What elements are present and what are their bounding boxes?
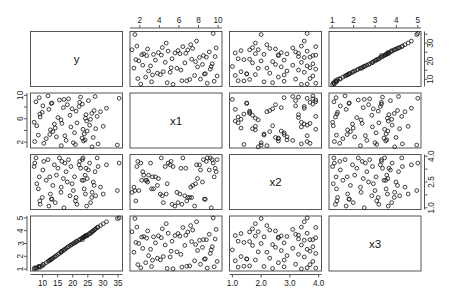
axis-x3-left: 12345 <box>17 215 28 271</box>
tick-label-x3: 1 <box>17 266 26 271</box>
tick-label-y: 20 <box>427 56 436 66</box>
tick-label-x1: 4 <box>157 16 162 25</box>
scatter-panel-x1-vs-x3 <box>130 216 222 271</box>
axis-x2-bottom: 1.02.03.04.0 <box>227 275 325 288</box>
tick-label-x3: 4 <box>17 228 26 233</box>
tick-label-x2: 2.5 <box>427 176 436 188</box>
scatter-panel-y-vs-x2 <box>31 155 123 210</box>
diagonal-panel-y: y <box>31 32 123 87</box>
tick-label-x3: 5 <box>17 215 26 220</box>
scatter-panel-x1-vs-y <box>130 32 222 87</box>
tick-label-x2: 3.0 <box>284 279 296 288</box>
diagonal-panel-x2: x2 <box>230 155 322 210</box>
tick-label-y: 30 <box>98 279 108 288</box>
tick-label-y: 30 <box>427 38 436 48</box>
tick-label-x3: 3 <box>373 16 378 25</box>
diagonal-panel-x3: x3 <box>329 216 421 271</box>
axis-x1-left: 2610 <box>17 90 28 148</box>
axis-y-bottom: 101520253035 <box>31 275 123 288</box>
scatter-panel-x1-vs-x2 <box>130 155 222 210</box>
tick-label-x1: 2 <box>138 16 143 25</box>
scatter-panel-x3-vs-x1 <box>329 93 421 149</box>
scatter-panel-x2-vs-y <box>230 32 322 87</box>
tick-label-y: 25 <box>83 279 93 288</box>
scatter-panel-y-vs-x3 <box>31 216 123 271</box>
variable-label-x3: x3 <box>369 238 381 250</box>
tick-label-x2: 1.0 <box>227 279 239 288</box>
tick-label-x1: 10 <box>214 16 224 25</box>
variable-label-x2: x2 <box>269 176 281 188</box>
variable-label-x1: x1 <box>170 115 182 127</box>
tick-label-x2: 2.0 <box>255 279 267 288</box>
tick-label-x1: 2 <box>17 139 26 144</box>
tick-label-x1: 10 <box>17 90 26 100</box>
tick-label-x2: 1.0 <box>427 202 436 214</box>
tick-label-y: 20 <box>68 279 78 288</box>
axis-y-right: 102030 <box>425 32 436 87</box>
tick-label-y: 15 <box>53 279 63 288</box>
tick-label-x3: 1 <box>330 16 335 25</box>
tick-label-x3: 3 <box>17 241 26 246</box>
scatter-panel-x2-vs-x1 <box>230 93 322 149</box>
scatter-panel-x3-vs-y <box>329 32 421 87</box>
scatter-panel-x2-vs-x3 <box>230 216 322 271</box>
tick-label-y: 10 <box>427 74 436 84</box>
scatterplot-matrix: yx1x2x3246810123451015202530351.02.03.04… <box>0 0 454 291</box>
tick-label-x1: 6 <box>177 16 182 25</box>
tick-label-x3: 2 <box>351 16 356 25</box>
axis-x3-top: 12345 <box>329 16 421 29</box>
scatter-panel-y-vs-x1 <box>31 93 123 149</box>
tick-label-y: 35 <box>113 279 123 288</box>
axis-x2-right: 1.02.54.0 <box>425 150 436 213</box>
variable-label-y: y <box>74 53 80 65</box>
tick-label-x1: 6 <box>17 116 26 121</box>
tick-label-y: 10 <box>38 279 48 288</box>
tick-label-x3: 5 <box>416 16 421 25</box>
diagonal-panel-x1: x1 <box>130 93 222 148</box>
pairs-plot-canvas: yx1x2x3246810123451015202530351.02.03.04… <box>0 0 454 291</box>
tick-label-x2: 4.0 <box>313 279 325 288</box>
tick-label-x2: 4.0 <box>427 150 436 162</box>
axis-x1-top: 246810 <box>130 16 223 29</box>
tick-label-x1: 8 <box>196 16 201 25</box>
scatter-panel-x3-vs-x2 <box>329 155 421 210</box>
tick-label-x3: 2 <box>17 254 26 259</box>
tick-label-x3: 4 <box>394 16 399 25</box>
